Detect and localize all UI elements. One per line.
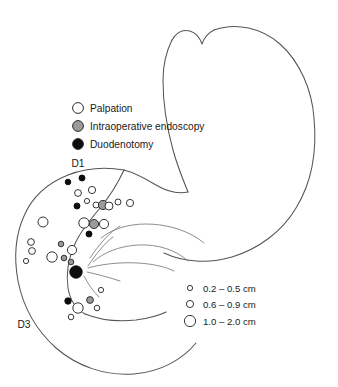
legend-label-palpation: Palpation — [90, 103, 132, 114]
lesion-marker-palpation — [126, 199, 133, 206]
size-legend-item-medium: 0.6 – 0.9 cm — [186, 299, 255, 310]
lesion-marker-duodenotomy — [65, 179, 71, 185]
size-label-large: 1.0 – 2.0 cm — [203, 316, 256, 327]
lesion-marker-palpation — [79, 218, 89, 228]
lesion-marker-palpation — [67, 245, 76, 254]
size-legend-item-large: 1.0 – 2.0 cm — [184, 315, 255, 326]
stomach-greater-curvature-path — [164, 26, 315, 261]
pancreatic-duct-branch-c-path — [87, 272, 120, 281]
lesion-marker-palpation — [99, 219, 108, 228]
pancreas-upper-border-path — [101, 224, 204, 243]
lesion-marker-endoscopy — [89, 219, 98, 228]
size-legend: 0.2 – 0.5 cm 0.6 – 0.9 cm 1.0 – 2.0 cm — [184, 283, 255, 327]
duodenum-horizontal-part-path — [85, 312, 166, 321]
pancreas-contour — [84, 224, 204, 297]
size-swatch-medium-icon — [186, 300, 193, 307]
lesion-marker-duodenotomy — [79, 175, 85, 181]
lesion-marker-endoscopy — [87, 297, 94, 304]
lesion-marker-palpation — [115, 199, 121, 205]
endoscopy-swatch-icon — [73, 121, 84, 132]
stomach-duodenum-lesion-map: D1 D3 Palpation Intraoperative endoscopy… — [0, 0, 338, 387]
label-d3: D3 — [17, 319, 30, 330]
pylorus-antrum-path — [124, 170, 188, 193]
lesion-marker-endoscopy — [58, 241, 64, 247]
lesion-marker-duodenotomy — [86, 231, 92, 237]
lesion-marker-palpation — [68, 314, 74, 320]
legend-item-intraoperative-endoscopy: Intraoperative endoscopy — [73, 121, 206, 132]
stomach-lesser-curvature-path — [163, 40, 188, 192]
method-legend: Palpation Intraoperative endoscopy Duode… — [73, 103, 206, 150]
legend-label-duodenotomy: Duodenotomy — [90, 139, 154, 150]
label-d1: D1 — [71, 158, 84, 169]
lesion-marker-palpation — [88, 186, 95, 193]
ampulla-path — [84, 276, 99, 297]
duodenum-outer-wall-path — [16, 168, 196, 374]
legend-label-endoscopy: Intraoperative endoscopy — [90, 121, 205, 132]
stomach-cardia-notch-path — [172, 30, 214, 44]
legend-item-duodenotomy: Duodenotomy — [73, 139, 155, 150]
duodenotomy-swatch-icon — [73, 139, 84, 150]
lesion-marker-palpation — [23, 258, 28, 263]
palpation-swatch-icon — [73, 103, 84, 114]
size-label-small: 0.2 – 0.5 cm — [203, 283, 256, 294]
lesion-marker-palpation — [84, 198, 89, 203]
lesion-marker-palpation — [94, 305, 100, 311]
duodenum-outline — [16, 168, 196, 374]
lesion-marker-palpation — [73, 303, 83, 313]
lesion-marker-palpation — [105, 202, 113, 210]
size-swatch-small-icon — [187, 285, 192, 290]
lesion-marker-endoscopy — [68, 259, 74, 265]
lesion-marker-palpation — [75, 190, 82, 197]
lesion-marker-layer — [23, 175, 133, 320]
pancreas-body-path — [93, 245, 188, 262]
lesion-marker-palpation — [28, 239, 35, 246]
lesion-marker-duodenotomy — [70, 266, 82, 278]
size-swatch-large-icon — [184, 315, 195, 326]
size-label-medium: 0.6 – 0.9 cm — [203, 299, 256, 310]
legend-item-palpation: Palpation — [73, 103, 133, 114]
lesion-marker-palpation — [29, 248, 36, 255]
size-legend-item-small: 0.2 – 0.5 cm — [187, 283, 255, 294]
lesion-marker-palpation — [38, 217, 48, 227]
diagram-canvas: D1 D3 Palpation Intraoperative endoscopy… — [0, 0, 338, 387]
lesion-marker-endoscopy — [61, 255, 67, 261]
lesion-marker-palpation — [47, 252, 57, 262]
lesion-marker-palpation — [98, 287, 103, 292]
lesion-marker-duodenotomy — [74, 203, 80, 209]
lesion-marker-duodenotomy — [65, 298, 71, 304]
pancreatic-duct-main-path — [88, 263, 174, 271]
